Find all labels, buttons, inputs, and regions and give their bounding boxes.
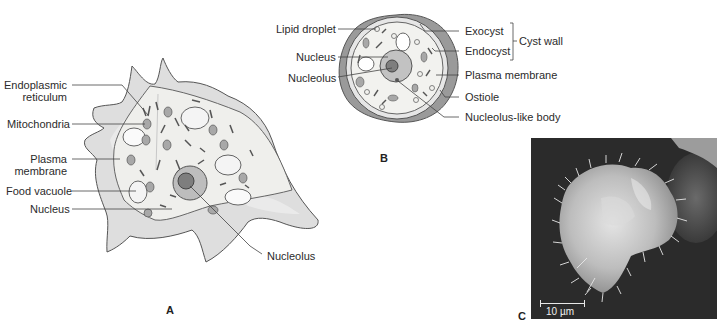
cyst-nucleolus — [386, 60, 398, 72]
sem-cell-image — [531, 138, 717, 319]
food-vacuole — [129, 181, 147, 203]
label-food-vacuole: Food vacuole — [6, 185, 72, 197]
nucleolus — [178, 173, 194, 189]
label-nucleolus-like-body: Nucleolus-like body — [465, 111, 560, 123]
label-nucleolus-b: Nucleolus — [288, 72, 336, 84]
label-nucleus-a: Nucleus — [30, 203, 70, 215]
label-line: Plasma — [14, 153, 67, 165]
label-lipid-droplet: Lipid droplet — [276, 23, 336, 35]
label-line: Endoplasmic — [4, 79, 67, 91]
scale-bar — [540, 303, 585, 304]
label-cyst-wall: Cyst wall — [519, 35, 563, 47]
label-mitochondria: Mitochondria — [7, 118, 70, 130]
label-plasma-membrane-b: Plasma membrane — [465, 69, 557, 81]
label-line: membrane — [14, 165, 67, 177]
trophozoite-cell-diagram — [72, 58, 318, 262]
label-nucleus-b: Nucleus — [296, 51, 336, 63]
label-plasma-membrane: Plasma membrane — [14, 153, 67, 177]
label-exocyst: Exocyst — [465, 25, 504, 37]
vacuole — [123, 128, 145, 146]
label-endoplasmic-reticulum: Endoplasmic reticulum — [4, 79, 67, 103]
vacuole — [215, 155, 241, 175]
scale-bar-label: 10 µm — [546, 306, 574, 317]
label-nucleolus-a: Nucleolus — [267, 250, 315, 262]
label-endocyst: Endocyst — [465, 45, 510, 57]
label-ostiole: Ostiole — [465, 91, 499, 103]
vacuole — [225, 189, 251, 205]
panel-letter-b: B — [380, 152, 388, 164]
label-line: reticulum — [4, 91, 67, 103]
panel-letter-a: A — [166, 304, 174, 316]
panel-letter-c: C — [518, 310, 526, 322]
sem-micrograph: 10 µm — [531, 138, 717, 319]
